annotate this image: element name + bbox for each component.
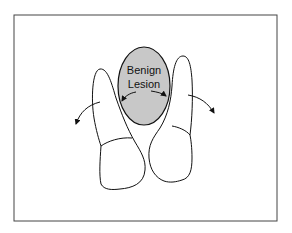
lesion-label-line2: Lesion [128, 78, 160, 90]
lesion-label-line1: Benign [127, 64, 161, 76]
diagram-canvas: Benign Lesion [0, 0, 292, 233]
